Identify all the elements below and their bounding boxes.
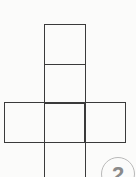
option-number-badge: 2 — [101, 157, 135, 177]
net-cell-top — [44, 24, 86, 65]
net-cell-left — [4, 102, 45, 143]
net-cell-bottom — [44, 142, 86, 177]
option-number-label: 2 — [112, 164, 124, 177]
net-cell-upper-middle — [44, 64, 86, 104]
net-cell-center — [44, 102, 86, 143]
net-cell-right — [84, 102, 126, 143]
